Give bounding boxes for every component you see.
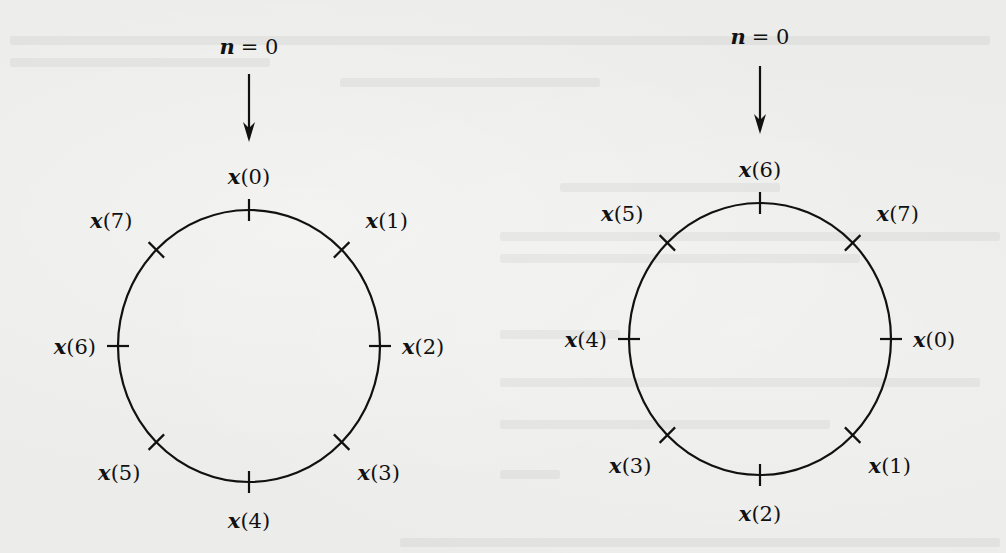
sample-label: x(3)	[608, 453, 651, 478]
sample-label: x(0)	[912, 327, 955, 352]
sample-label: x(5)	[97, 460, 140, 485]
circular-shift-diagram: n= 0 x(0)x(1)x(2)x(3)x(4)x(5)x(6)x(7) n=…	[0, 0, 1006, 553]
sample-label: x(6)	[738, 157, 781, 182]
diagram-original: n= 0 x(0)x(1)x(2)x(3)x(4)x(5)x(6)x(7)	[53, 34, 445, 533]
sample-label: x(1)	[868, 453, 911, 478]
start-index-label: n= 0	[731, 24, 790, 49]
start-index-label: n= 0	[220, 34, 279, 59]
diagram-shifted: n= 0 x(6)x(7)x(0)x(1)x(2)x(3)x(4)x(5)	[564, 24, 956, 526]
sample-label: x(1)	[365, 208, 408, 233]
sample-label: x(2)	[738, 501, 781, 526]
sample-label: x(3)	[357, 460, 400, 485]
sample-label: x(5)	[600, 201, 643, 226]
sample-label: x(0)	[227, 164, 270, 189]
sample-label: x(7)	[876, 201, 919, 226]
sample-label: x(6)	[53, 334, 96, 359]
sample-label: x(4)	[564, 327, 607, 352]
sample-label: x(4)	[227, 508, 270, 533]
sample-label: x(2)	[401, 334, 444, 359]
sample-label: x(7)	[89, 208, 132, 233]
